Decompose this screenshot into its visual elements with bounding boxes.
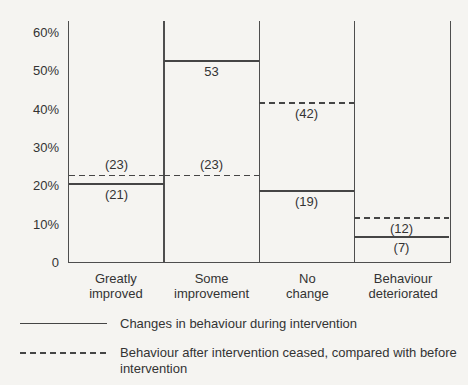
plot-area: (21)53(19)(7)(23)(23)(42)(12) (68, 21, 451, 263)
value-label: (23) (164, 157, 259, 172)
legend-label-solid: Changes in behaviour during intervention (120, 316, 460, 332)
column-divider (259, 21, 261, 262)
y-tick-label: 40% (0, 102, 59, 118)
value-label: 53 (164, 64, 259, 79)
column-divider (163, 21, 165, 262)
value-label: (7) (354, 240, 449, 255)
y-tick-label: 30% (0, 140, 59, 156)
value-label: (12) (354, 221, 449, 236)
y-tick-label: 0 (0, 255, 59, 271)
legend-label-dashed: Behaviour after intervention ceased, com… (120, 345, 460, 377)
series-line-dashed (354, 217, 449, 219)
series-line-dashed (164, 175, 259, 177)
value-label: (21) (69, 187, 164, 202)
solid-line-key-icon (20, 323, 107, 324)
y-tick-label: 10% (0, 217, 59, 233)
series-line-solid (69, 183, 164, 185)
category-label-no-change: No change (260, 271, 356, 301)
y-tick-label: 50% (0, 63, 59, 79)
scanned-chart-page: (21)53(19)(7)(23)(23)(42)(12) 010%20%30%… (0, 0, 468, 385)
category-label-greatly-improved: Greatly improved (68, 271, 164, 301)
series-line-solid (354, 236, 449, 238)
y-tick-label: 20% (0, 178, 59, 194)
series-line-solid (259, 190, 354, 192)
series-line-solid (164, 60, 259, 62)
value-label: (42) (259, 106, 354, 121)
category-label-behaviour-deteriorated: Behaviour deteriorated (355, 271, 451, 301)
x-axis-labels: Greatly improved Some improvement No cha… (68, 271, 451, 301)
category-label-some-improvement: Some improvement (164, 271, 260, 301)
value-label: (23) (69, 157, 164, 172)
series-line-dashed (259, 102, 354, 104)
y-tick-label: 60% (0, 25, 59, 41)
value-label: (19) (259, 194, 354, 209)
series-line-dashed (69, 175, 164, 177)
dashed-line-key-icon (20, 352, 107, 354)
